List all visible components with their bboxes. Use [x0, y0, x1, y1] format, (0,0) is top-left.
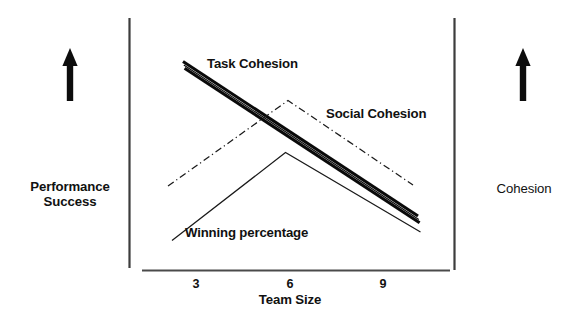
left-axis-up-arrow-icon — [62, 48, 77, 101]
x-axis-tick-3: 3 — [181, 277, 211, 291]
y-axis-right-title: Cohesion — [468, 182, 580, 197]
series-label-social-cohesion: Social Cohesion — [326, 107, 426, 122]
series-label-task-cohesion: Task Cohesion — [207, 57, 298, 72]
chart-figure: Performance Success Cohesion Task Cohesi… — [0, 0, 581, 321]
series-line-task-cohesion — [183, 62, 420, 223]
series-label-winning-percentage: Winning percentage — [185, 226, 308, 241]
x-axis-title: Team Size — [230, 293, 350, 308]
y-axis-left-title-line1: Performance — [0, 180, 140, 195]
x-axis-tick-6: 6 — [275, 277, 305, 291]
right-axis-up-arrow-icon — [515, 48, 530, 101]
y-axis-left-title-line2: Success — [0, 195, 140, 210]
x-axis-tick-9: 9 — [368, 277, 398, 291]
y-axis-left-title: Performance Success — [0, 180, 140, 210]
chart-canvas — [0, 0, 581, 321]
